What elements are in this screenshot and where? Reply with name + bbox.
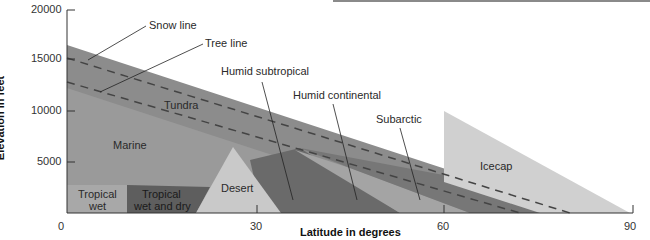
subarctic-label: Subarctic (376, 113, 422, 125)
y-tick-label-15000: 15000 (31, 52, 62, 64)
tropical-wet-dry-label-2: wet and dry (134, 200, 191, 212)
icecap-label: Icecap (480, 160, 512, 172)
humid-subtropical-label: Humid subtropical (221, 65, 309, 77)
tundra-label: Tundra (164, 99, 198, 111)
humid-continental-label: Humid continental (293, 89, 381, 101)
tropical-wet-label-1: Tropical (78, 188, 117, 200)
desert-label: Desert (221, 182, 253, 194)
x-tick-label-60: 60 (437, 220, 449, 232)
marine-label: Marine (113, 139, 147, 151)
snow-line-leader (88, 26, 146, 60)
snow-line-label: Snow line (149, 19, 197, 31)
x-tick-label-0: 0 (58, 220, 64, 232)
tree-line-label: Tree line (205, 37, 247, 49)
x-tick-label-90: 90 (624, 220, 636, 232)
x-tick-label-30: 30 (250, 220, 262, 232)
tropical-wet-label-2: wet (89, 200, 106, 212)
y-axis-label: Elevation in feet (0, 76, 6, 160)
x-axis-label: Latitude in degrees (300, 226, 401, 238)
y-tick-label-20000: 20000 (31, 3, 62, 15)
y-tick-label-10000: 10000 (31, 104, 62, 116)
tropical-wet-dry-label-1: Tropical (142, 188, 181, 200)
y-tick-label-5000: 5000 (37, 155, 61, 167)
